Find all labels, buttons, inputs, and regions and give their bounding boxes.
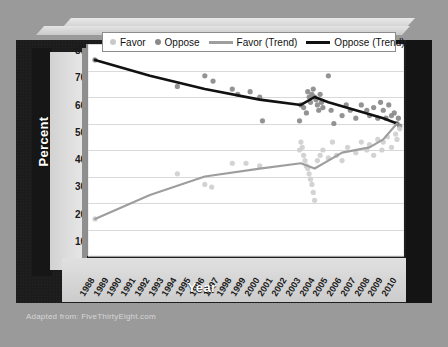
data-point xyxy=(175,171,180,176)
data-point xyxy=(320,105,325,110)
y-tick-50: 50 xyxy=(52,127,86,138)
data-point xyxy=(389,145,394,150)
chart-screenshot: Percent 80706050403020100 19881989199019… xyxy=(0,0,448,347)
data-point xyxy=(329,108,334,113)
y-axis-title-strip: Percent xyxy=(32,48,52,276)
data-point xyxy=(243,161,248,166)
data-point xyxy=(353,116,358,121)
data-point xyxy=(339,113,344,118)
data-point xyxy=(302,158,307,163)
plot-svg xyxy=(88,44,404,256)
data-point xyxy=(230,161,235,166)
data-point xyxy=(307,171,312,176)
data-point xyxy=(320,147,325,152)
data-point xyxy=(381,108,386,113)
data-point xyxy=(297,118,302,123)
data-point xyxy=(311,86,316,91)
y-tick-80: 80 xyxy=(52,45,86,56)
y-tick-10: 10 xyxy=(52,236,86,247)
legend-item-oppose-trend-[interactable]: Oppose (Trend) xyxy=(306,37,404,48)
data-point xyxy=(392,110,397,115)
y-tick-60: 60 xyxy=(52,100,86,111)
data-point xyxy=(371,105,376,110)
y-axis-column: 80706050403020100 xyxy=(50,52,86,270)
data-point xyxy=(312,198,317,203)
plot-area xyxy=(86,44,404,256)
data-point xyxy=(339,158,344,163)
data-point xyxy=(311,190,316,195)
data-point xyxy=(359,102,364,107)
data-point xyxy=(330,139,335,144)
data-point xyxy=(248,89,253,94)
legend-item-oppose[interactable]: Oppose xyxy=(155,37,200,48)
trendline-oppose-trend- xyxy=(95,60,397,124)
data-point xyxy=(318,153,323,158)
chart-right-wedge xyxy=(406,40,432,303)
chart-legend: FavorOpposeFavor (Trend)Oppose (Trend) xyxy=(102,32,396,52)
data-point xyxy=(378,100,383,105)
data-point xyxy=(309,182,314,187)
legend-label: Oppose (Trend) xyxy=(334,37,404,48)
data-point xyxy=(315,158,320,163)
data-point xyxy=(209,185,214,190)
data-point xyxy=(397,126,402,131)
legend-label: Favor (Trend) xyxy=(237,37,298,48)
y-tick-30: 30 xyxy=(52,181,86,192)
data-point xyxy=(318,92,323,97)
trendline-favor-trend- xyxy=(95,124,397,219)
data-point xyxy=(260,118,265,123)
data-point xyxy=(304,110,309,115)
y-axis-title: Percent xyxy=(36,92,51,192)
y-tick-20: 20 xyxy=(52,209,86,220)
data-point xyxy=(300,145,305,150)
data-point xyxy=(210,79,215,84)
series-oppose xyxy=(92,57,402,128)
legend-item-favor-trend-[interactable]: Favor (Trend) xyxy=(209,37,298,48)
data-point xyxy=(298,139,303,144)
y-tick-40: 40 xyxy=(52,154,86,165)
data-point xyxy=(202,73,207,78)
series-favor xyxy=(92,126,402,221)
data-point xyxy=(371,153,376,158)
legend-label: Favor xyxy=(120,37,146,48)
data-point xyxy=(393,132,398,137)
data-point xyxy=(379,147,384,152)
data-point xyxy=(308,177,313,182)
data-point xyxy=(230,86,235,91)
data-point xyxy=(331,121,336,126)
legend-line-icon xyxy=(306,41,330,44)
legend-item-favor[interactable]: Favor xyxy=(110,37,146,48)
legend-line-icon xyxy=(209,41,233,44)
legend-label: Oppose xyxy=(165,37,200,48)
x-axis-title: Year xyxy=(16,280,388,295)
data-point xyxy=(386,102,391,107)
gridline-0 xyxy=(88,256,404,257)
chart-3d-shell: Percent 80706050403020100 19881989199019… xyxy=(16,18,432,303)
data-point xyxy=(301,153,306,158)
data-point xyxy=(359,139,364,144)
legend-dot-icon xyxy=(110,39,116,45)
data-point xyxy=(396,116,401,121)
legend-dot-icon xyxy=(155,39,161,45)
data-point xyxy=(394,137,399,142)
data-point xyxy=(175,84,180,89)
source-note: Adapted from: FiveThirtyEight.com xyxy=(26,312,156,321)
data-point xyxy=(326,73,331,78)
y-tick-70: 70 xyxy=(52,72,86,83)
data-point xyxy=(202,182,207,187)
data-point xyxy=(345,145,350,150)
